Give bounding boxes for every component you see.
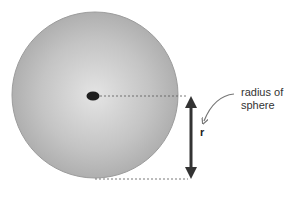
center-point [87,92,100,101]
annotation-label: radius of sphere [241,86,283,112]
radius-symbol: r [200,126,204,138]
annotation-line-2: sphere [241,99,283,112]
annotation-line-1: radius of [241,86,283,99]
pointer-arrow [204,94,234,121]
radius-arrow [185,96,197,179]
